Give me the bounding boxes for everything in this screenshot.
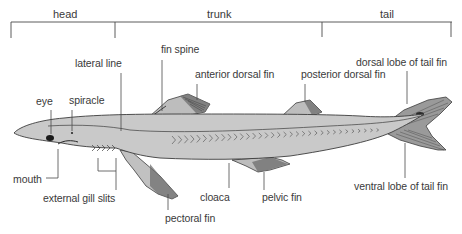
label-pelvic-fin: pelvic fin xyxy=(262,192,302,203)
label-mouth: mouth xyxy=(13,174,42,185)
label-anterior-dorsal-fin: anterior dorsal fin xyxy=(195,69,274,80)
posterior-dorsal-fin xyxy=(282,100,322,116)
shark-body xyxy=(14,114,424,159)
leader-gill-slits xyxy=(98,158,116,190)
leader-mouth xyxy=(46,149,58,178)
label-cloaca: cloaca xyxy=(200,192,230,203)
spiracle xyxy=(71,132,73,134)
label-dorsal-lobe-of-tail-fin: dorsal lobe of tail fin xyxy=(356,57,447,68)
label-spiracle: spiracle xyxy=(69,95,104,106)
label-eye: eye xyxy=(36,96,53,107)
label-fin-spine: fin spine xyxy=(161,44,199,55)
region-label-head: head xyxy=(53,9,77,20)
label-lateral-line: lateral line xyxy=(75,58,122,69)
label-external-gill-slits: external gill slits xyxy=(43,193,115,204)
region-label-trunk: trunk xyxy=(207,9,231,20)
label-pectoral-fin: pectoral fin xyxy=(165,213,215,224)
region-label-tail: tail xyxy=(380,9,394,20)
region-brackets xyxy=(11,22,452,38)
eye xyxy=(46,135,54,141)
label-ventral-lobe-of-tail-fin: ventral lobe of tail fin xyxy=(354,181,448,192)
anterior-dorsal-fin xyxy=(150,94,210,116)
label-posterior-dorsal-fin: posterior dorsal fin xyxy=(301,69,385,80)
